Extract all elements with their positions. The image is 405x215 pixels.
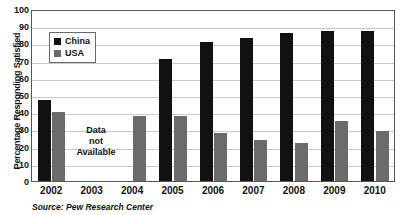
bar-china-2007 [240, 38, 253, 181]
legend-swatch-china [54, 38, 61, 45]
x-axis-tick-2004: 2004 [109, 185, 155, 196]
bar-china-2010 [361, 31, 374, 181]
bar-china-2008 [280, 33, 293, 181]
bar-usa-2007 [254, 140, 267, 181]
y-axis-tick-90: 90 [3, 23, 29, 32]
x-axis-tick-2010: 2010 [352, 185, 398, 196]
bar-china-2009 [321, 31, 334, 181]
legend-item-china[interactable]: China [54, 35, 90, 47]
source-caption: Source: Pew Research Center [32, 202, 153, 212]
bar-usa-2006 [214, 133, 227, 181]
legend-label-china: China [65, 35, 90, 47]
y-axis-tick-50: 50 [3, 92, 29, 101]
bar-china-2005 [159, 59, 172, 181]
y-axis-tick-40: 40 [3, 109, 29, 118]
y-axis-tick-0: 0 [3, 178, 29, 187]
bar-usa-2004 [133, 116, 146, 181]
annotation-line-2: not [62, 136, 130, 147]
y-axis-tick-20: 20 [3, 143, 29, 152]
bar-usa-2005 [174, 116, 187, 181]
bar-group-2005 [159, 11, 187, 181]
data-not-available-annotation: Data not Available [62, 125, 130, 158]
x-axis-tick-2005: 2005 [150, 185, 196, 196]
x-axis-tick-2006: 2006 [190, 185, 236, 196]
x-axis-tick-2003: 2003 [69, 185, 115, 196]
x-axis-tick-2009: 2009 [311, 185, 357, 196]
bar-china-2002 [38, 100, 51, 181]
legend-item-usa[interactable]: USA [54, 47, 90, 59]
y-axis-tick-10: 10 [3, 160, 29, 169]
y-axis-tick-30: 30 [3, 126, 29, 135]
x-axis-tick-2008: 2008 [271, 185, 317, 196]
bar-group-2008 [280, 11, 308, 181]
bar-usa-2010 [376, 131, 389, 181]
chart-legend[interactable]: China USA [49, 32, 96, 63]
annotation-line-1: Data [62, 125, 130, 136]
bar-china-2006 [200, 42, 213, 181]
x-axis-tick-2002: 2002 [28, 185, 74, 196]
bar-usa-2008 [295, 143, 308, 181]
y-axis-tick-100: 100 [3, 6, 29, 15]
legend-swatch-usa [54, 50, 61, 57]
legend-label-usa: USA [65, 47, 84, 59]
bar-group-2007 [240, 11, 268, 181]
bar-group-2010 [361, 11, 389, 181]
y-axis-tick-60: 60 [3, 74, 29, 83]
x-axis-tick-2007: 2007 [230, 185, 276, 196]
annotation-line-3: Available [62, 147, 130, 158]
y-axis-tick-70: 70 [3, 57, 29, 66]
chart-figure: Percentage Responding Satisfied 01020304… [0, 0, 405, 215]
bar-group-2006 [200, 11, 228, 181]
bar-group-2009 [321, 11, 349, 181]
bar-usa-2009 [335, 121, 348, 181]
y-axis-tick-80: 80 [3, 40, 29, 49]
